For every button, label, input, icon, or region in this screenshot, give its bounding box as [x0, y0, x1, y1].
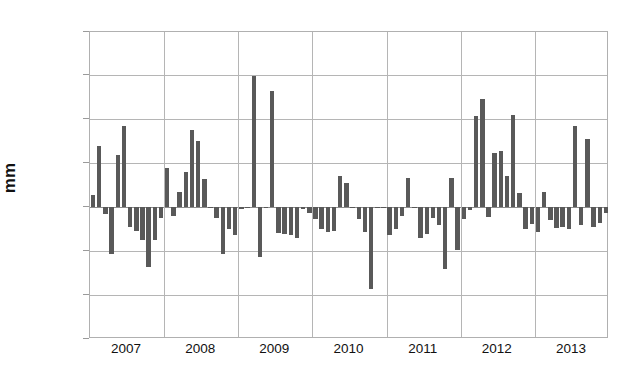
y-gridline: [90, 119, 607, 120]
bar: [455, 207, 459, 249]
plot-area: [89, 31, 608, 338]
bar: [227, 207, 231, 229]
bar: [233, 207, 237, 235]
x-tick-label: 2010: [333, 341, 363, 356]
x-gridline: [312, 32, 313, 337]
bar: [221, 207, 225, 253]
bar: [394, 207, 398, 229]
rainfall-anomaly-chart: mm 200150100500-50-100-150 2007200820092…: [0, 0, 629, 370]
bar: [289, 207, 293, 235]
bar: [573, 126, 577, 208]
footer-watermark: [200, 357, 530, 367]
bar: [270, 91, 274, 208]
bar: [171, 207, 175, 216]
bar: [313, 207, 317, 218]
x-gridline: [461, 32, 462, 337]
x-tick-label: 2008: [185, 341, 215, 356]
bar: [159, 207, 163, 218]
y-tick-mark: [83, 118, 89, 119]
bar: [598, 207, 602, 223]
bar: [258, 207, 262, 257]
bar: [369, 207, 373, 289]
bar: [542, 192, 546, 208]
x-tick-label: 2013: [556, 341, 586, 356]
y-tick-mark: [83, 31, 89, 32]
bar: [530, 207, 534, 224]
y-gridline: [90, 251, 607, 252]
bar: [474, 116, 478, 207]
bar: [499, 151, 503, 207]
bar: [604, 207, 608, 212]
bar: [332, 207, 336, 231]
x-tick-label: 2011: [408, 341, 437, 356]
bar: [128, 207, 132, 226]
bar: [554, 207, 558, 227]
bar: [239, 207, 243, 209]
y-gridline: [90, 163, 607, 164]
y-axis-title: mm: [0, 148, 25, 208]
bar: [165, 168, 169, 207]
bar: [486, 207, 490, 217]
bar: [245, 207, 249, 208]
bar: [381, 207, 385, 208]
y-tick-mark: [83, 162, 89, 163]
bar: [412, 207, 416, 208]
bar: [190, 130, 194, 207]
bar: [196, 141, 200, 208]
bar: [214, 207, 218, 218]
bar: [103, 207, 107, 214]
y-gridline: [90, 295, 607, 296]
bar: [425, 207, 429, 233]
bar: [387, 207, 391, 234]
x-gridline: [238, 32, 239, 337]
bar: [252, 76, 256, 208]
bar: [585, 139, 589, 207]
bar: [375, 207, 379, 208]
x-tick-label: 2009: [259, 341, 289, 356]
bar: [319, 207, 323, 229]
bar: [523, 207, 527, 229]
bar: [177, 192, 181, 208]
y-tick-mark: [83, 74, 89, 75]
bar: [134, 207, 138, 231]
x-tick-label: 2012: [482, 341, 512, 356]
bar: [140, 207, 144, 239]
bar: [97, 146, 101, 207]
bar: [109, 207, 113, 253]
bar: [301, 207, 305, 209]
bar: [91, 195, 95, 207]
bar: [295, 207, 299, 238]
y-tick-mark: [83, 206, 89, 207]
y-tick-mark: [83, 338, 89, 339]
bar: [202, 179, 206, 207]
bar: [591, 207, 595, 226]
bar: [116, 155, 120, 208]
bar: [462, 207, 466, 218]
bar: [517, 193, 521, 207]
bar: [350, 207, 354, 208]
bar: [443, 207, 447, 268]
bar: [431, 207, 435, 218]
bar: [505, 176, 509, 208]
bar: [560, 207, 564, 226]
bar: [153, 207, 157, 239]
y-tick-mark: [83, 294, 89, 295]
y-tick-mark: [83, 250, 89, 251]
bar: [184, 172, 188, 207]
bar: [468, 207, 472, 210]
bar: [437, 207, 441, 225]
bar: [536, 207, 540, 232]
bar: [449, 178, 453, 207]
bar: [122, 126, 126, 208]
x-tick-label: 2007: [111, 341, 141, 356]
bar: [307, 207, 311, 212]
bar: [400, 207, 404, 216]
bar: [338, 176, 342, 208]
bar: [511, 115, 515, 207]
bar: [480, 99, 484, 208]
x-gridline: [387, 32, 388, 337]
bar: [208, 207, 212, 208]
bar: [344, 183, 348, 208]
bar: [264, 207, 268, 208]
bar: [276, 207, 280, 232]
